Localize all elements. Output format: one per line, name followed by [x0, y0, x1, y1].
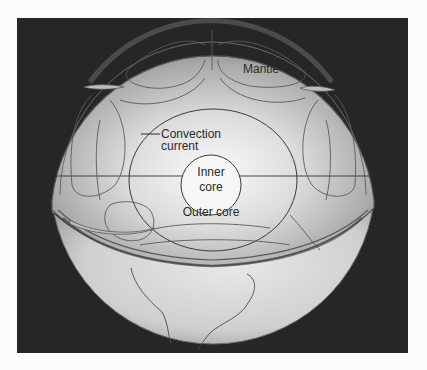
label-outer-core: Outer core	[183, 206, 240, 218]
label-convection-line2: current	[161, 140, 198, 152]
label-mantle: Mantle	[243, 63, 279, 75]
label-inner-core-line2: core	[199, 181, 222, 193]
cutaway-interior	[52, 21, 374, 266]
label-inner-core-line1: Inner	[197, 166, 224, 178]
